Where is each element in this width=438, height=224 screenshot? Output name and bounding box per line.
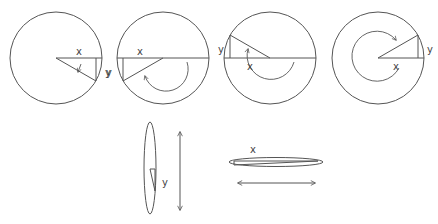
vertical-edge-view: y <box>144 122 180 214</box>
x-label: x <box>247 61 253 72</box>
circle-3: x y <box>218 12 316 104</box>
y-label: y <box>162 177 168 188</box>
x-label: x <box>250 144 256 155</box>
radius-line <box>378 35 418 58</box>
y-label: y <box>106 67 112 78</box>
circle-2: x y <box>106 12 209 104</box>
rotation-arrow-icon <box>352 31 399 81</box>
radius-line <box>123 58 163 81</box>
edge-ellipse <box>229 158 323 167</box>
horizontal-edge-view: x <box>229 144 323 183</box>
radius-line <box>230 35 270 58</box>
circle-4: x y <box>332 12 433 104</box>
edge-ellipse <box>144 122 156 214</box>
x-label: x <box>393 61 399 72</box>
radius-line <box>150 169 155 191</box>
radius-line <box>56 58 96 81</box>
y-label: y <box>218 44 224 55</box>
rotation-arrow-icon <box>78 64 81 72</box>
unit-circle-diagram: x y x y x y x y y <box>0 0 438 224</box>
rotation-arrow-icon <box>145 62 188 91</box>
x-label: x <box>137 46 143 57</box>
y-label: y <box>427 44 433 55</box>
x-label: x <box>76 46 82 57</box>
radius-line <box>234 161 318 165</box>
rotation-arrow-icon <box>247 49 294 79</box>
circle-1: x y <box>10 12 111 104</box>
